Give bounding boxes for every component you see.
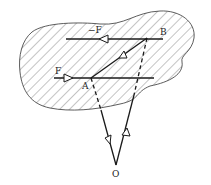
rigid-body-diagram: −F F A B O xyxy=(0,0,211,185)
vector-oa xyxy=(101,110,116,165)
label-a: A xyxy=(81,81,89,91)
label-o: O xyxy=(112,169,119,179)
label-b: B xyxy=(160,27,167,37)
label-minus-f: −F xyxy=(88,25,102,35)
vector-ob xyxy=(116,95,134,165)
arrow-up-icon xyxy=(122,128,130,136)
arrow-up-icon xyxy=(105,135,111,144)
rigid-body xyxy=(0,0,211,185)
label-f: F xyxy=(55,66,61,76)
